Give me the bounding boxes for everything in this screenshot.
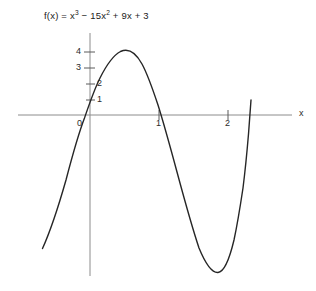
y-axis-tick-label-1: 1	[97, 94, 102, 104]
y-axis-tick-label-2: 2	[97, 78, 102, 88]
x-axis-tick-label-0: 0	[77, 118, 82, 128]
cubic-function-curve	[43, 50, 252, 272]
x-axis-tick-label-1: 1	[156, 118, 161, 128]
x-axis-tick-label-2: 2	[225, 118, 230, 128]
plot-canvas	[0, 0, 316, 291]
y-axis-tick-label-3: 3	[76, 62, 81, 72]
y-axis-tick-label-4: 4	[76, 46, 81, 56]
tick-marks-group	[84, 52, 228, 120]
function-plot-figure: f(x) = x3 − 15x2 + 9x + 3 4 3 2 1 0 1 2 …	[0, 0, 316, 291]
axes-group	[18, 33, 292, 276]
curve-group	[43, 50, 252, 272]
x-axis-label: x	[299, 108, 304, 118]
